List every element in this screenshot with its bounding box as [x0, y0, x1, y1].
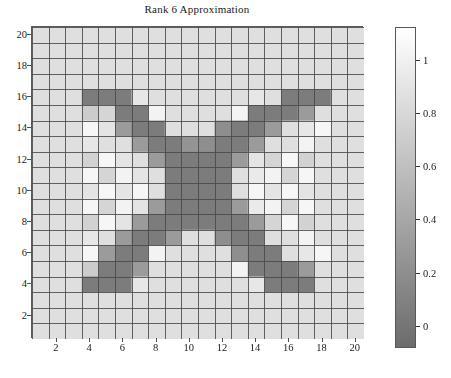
x-tick-mark: [322, 338, 323, 342]
x-tick-mark: [288, 338, 289, 342]
colorbar-tick-mark: [416, 166, 420, 167]
colorbar-tick-label: 0.8: [423, 108, 436, 119]
x-tick-label: 8: [153, 342, 158, 353]
colorbar-tick-label: 0.4: [423, 214, 436, 225]
x-tick-label: 10: [183, 342, 194, 353]
colorbar-tick-mark: [416, 273, 420, 274]
colorbar-tick-label: 0.2: [423, 267, 436, 278]
colorbar-tick-mark: [416, 326, 420, 327]
colorbar: 00.20.40.60.81: [395, 27, 451, 349]
colorbar-gradient: [396, 28, 415, 347]
x-axis: 2468101214161820: [0, 0, 451, 378]
colorbar-tick-label: 0.6: [423, 161, 436, 172]
x-tick-mark: [222, 338, 223, 342]
x-tick-label: 20: [349, 342, 360, 353]
colorbar-tick-mark: [416, 113, 420, 114]
x-tick-label: 12: [217, 342, 228, 353]
colorbar-tick-mark: [416, 60, 420, 61]
colorbar-tick-label: 0: [423, 320, 428, 331]
x-tick-label: 18: [316, 342, 327, 353]
x-tick-mark: [122, 338, 123, 342]
x-tick-label: 2: [53, 342, 58, 353]
figure-container: Rank 6 Approximation 2468101214161820 24…: [0, 0, 451, 378]
x-tick-label: 4: [86, 342, 91, 353]
colorbar-tick-mark: [416, 219, 420, 220]
x-tick-mark: [189, 338, 190, 342]
x-tick-mark: [156, 338, 157, 342]
x-tick-mark: [89, 338, 90, 342]
x-tick-mark: [255, 338, 256, 342]
x-tick-label: 16: [283, 342, 294, 353]
x-tick-mark: [56, 338, 57, 342]
x-tick-mark: [355, 338, 356, 342]
x-tick-label: 6: [120, 342, 125, 353]
x-tick-label: 14: [250, 342, 261, 353]
colorbar-tick-label: 1: [423, 54, 428, 65]
colorbar-box: [395, 27, 416, 348]
